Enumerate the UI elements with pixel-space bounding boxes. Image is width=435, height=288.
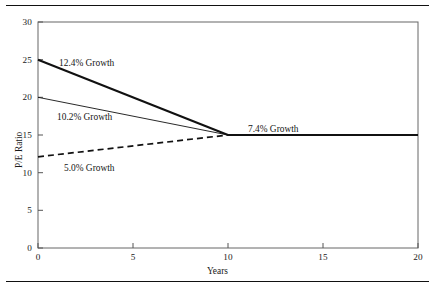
annotation-growth-10-2: 10.2% Growth (57, 112, 112, 122)
x-axis-ticks (38, 243, 418, 248)
xtick-label-20: 20 (406, 252, 430, 262)
annotation-growth-7-4: 7.4% Growth (248, 124, 299, 134)
ytick-label-20: 20 (10, 92, 32, 102)
annotation-growth-5-0: 5.0% Growth (64, 163, 115, 173)
xtick-label-15: 15 (311, 252, 335, 262)
xtick-label-10: 10 (216, 252, 240, 262)
plot-area (0, 0, 435, 288)
y-axis-title: P/E Ratio (14, 132, 24, 168)
series-line-5-0-growth (38, 135, 228, 157)
xtick-label-0: 0 (26, 252, 50, 262)
xtick-label-5: 5 (121, 252, 145, 262)
ytick-label-5: 5 (10, 205, 32, 215)
ytick-label-30: 30 (10, 17, 32, 27)
y-axis-ticks (38, 22, 43, 248)
ytick-label-25: 25 (10, 55, 32, 65)
annotation-growth-12-4: 12.4% Growth (59, 58, 114, 68)
series-line-12-4-growth (38, 60, 228, 135)
x-axis-title: Years (0, 266, 435, 276)
ytick-label-10: 10 (10, 168, 32, 178)
chart-figure: 30 25 20 15 10 5 0 0 5 10 15 20 P/E Rati… (0, 0, 435, 288)
